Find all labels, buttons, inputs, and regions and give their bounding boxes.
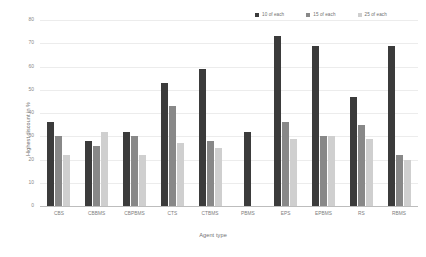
bar[interactable] [63,155,70,206]
plot-area [40,20,418,207]
bar-group [342,20,380,206]
legend-swatch-icon [255,13,259,17]
x-axis-title: Agent type [0,232,426,238]
chart-legend: 10 of each 15 of each 25 of each [255,13,387,18]
legend-item-2[interactable]: 25 of each [358,13,387,18]
bar-group [78,20,116,206]
bar[interactable] [199,69,206,206]
bar[interactable] [320,136,327,206]
legend-swatch-icon [358,13,362,17]
x-axis-tick-label: CBS [40,211,78,216]
bar[interactable] [404,160,411,207]
bar[interactable] [169,106,176,206]
y-axis-tick-label: 70 [18,40,34,45]
x-axis-tick-label: CTS [153,211,191,216]
bar-group [380,20,418,206]
x-axis-tick-label: PBMS [229,211,267,216]
bar[interactable] [350,97,357,206]
bar-group [40,20,78,206]
bar[interactable] [101,132,108,206]
bar-group [153,20,191,206]
y-axis-tick-label: 0 [18,203,34,208]
bar[interactable] [312,46,319,206]
bar[interactable] [131,136,138,206]
x-axis-tick-label: EPBMS [305,211,343,216]
bar[interactable] [139,155,146,206]
y-axis-tick-label: 50 [18,87,34,92]
x-axis-ticks: CBSCBBMSCBPBMSCTSCTBMSPBMSEPSEPBMSRSRBMS [40,211,418,216]
bar-group [305,20,343,206]
bar[interactable] [358,125,365,206]
bar-chart: 10 of each 15 of each 25 of each Highest… [0,0,426,257]
x-axis-tick-label: CBPBMS [116,211,154,216]
y-axis-tick-label: 40 [18,110,34,115]
bar-group [267,20,305,206]
bar[interactable] [328,136,335,206]
bar[interactable] [388,46,395,206]
bar[interactable] [215,148,222,206]
y-axis-tick-label: 80 [18,17,34,22]
legend-label: 10 of each [262,13,284,18]
y-axis-tick-label: 20 [18,157,34,162]
bar-group [229,20,267,206]
bar[interactable] [55,136,62,206]
x-axis-tick-label: EPS [267,211,305,216]
legend-item-0[interactable]: 10 of each [255,13,284,18]
x-axis-line [40,206,418,207]
bar[interactable] [123,132,130,206]
y-axis-tick-label: 10 [18,180,34,185]
y-axis-tick-label: 60 [18,64,34,69]
legend-swatch-icon [306,13,310,17]
bar-groups [40,20,418,206]
bar[interactable] [290,139,297,206]
bar[interactable] [161,83,168,206]
bar-group [116,20,154,206]
bar[interactable] [207,141,214,206]
bar[interactable] [396,155,403,206]
y-axis-tick-label: 30 [18,133,34,138]
bar[interactable] [282,122,289,206]
legend-label: 25 of each [365,13,387,18]
legend-item-1[interactable]: 15 of each [306,13,335,18]
x-axis-tick-label: CTBMS [191,211,229,216]
bar[interactable] [47,122,54,206]
bar[interactable] [244,132,251,206]
bar[interactable] [85,141,92,206]
bar[interactable] [93,146,100,206]
bar-group [191,20,229,206]
x-axis-tick-label: RS [342,211,380,216]
bar[interactable] [366,139,373,206]
bar[interactable] [274,36,281,206]
legend-label: 15 of each [313,13,335,18]
bar[interactable] [177,143,184,206]
x-axis-tick-label: RBMS [380,211,418,216]
x-axis-tick-label: CBBMS [78,211,116,216]
